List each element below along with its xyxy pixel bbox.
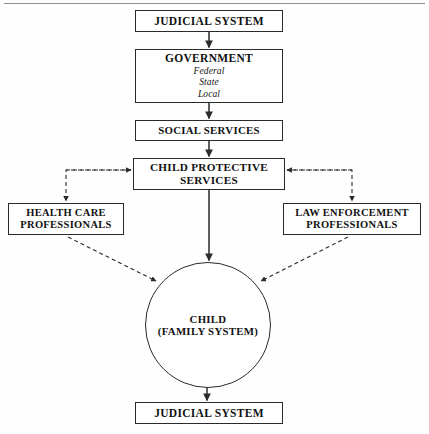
node-child-protective-services[interactable]: CHILD PROTECTIVE SERVICES — [133, 158, 285, 190]
node-label-line-2: PROFESSIONALS — [306, 219, 397, 231]
government-level-state: State — [199, 77, 219, 89]
node-label-line-2: (FAMILY SYSTEM) — [158, 325, 258, 337]
diagram-canvas: JUDICIAL SYSTEM GOVERNMENT Federal State… — [0, 0, 429, 434]
edge-law-enforcement-to-child-dashed — [261, 237, 348, 281]
node-government[interactable]: GOVERNMENT Federal State Local — [135, 49, 283, 103]
node-label: SOCIAL SERVICES — [158, 124, 260, 136]
node-health-care-professionals[interactable]: HEALTH CARE PROFESSIONALS — [8, 203, 124, 235]
edge-cps-to-health-care-dashed — [66, 170, 131, 201]
node-label-line-1: HEALTH CARE — [26, 207, 106, 219]
node-label: JUDICIAL SYSTEM — [154, 15, 264, 28]
node-label-line-2: PROFESSIONALS — [20, 219, 111, 231]
government-level-federal: Federal — [194, 66, 225, 78]
page-top-rule — [4, 3, 425, 4]
node-judicial-system-bottom[interactable]: JUDICIAL SYSTEM — [135, 402, 283, 424]
node-social-services[interactable]: SOCIAL SERVICES — [135, 120, 283, 141]
edge-cps-to-law-enforcement-dashed — [287, 170, 352, 201]
node-label-line-1: CHILD PROTECTIVE — [150, 161, 268, 174]
government-level-local: Local — [198, 89, 220, 101]
edge-health-care-to-child-dashed — [68, 237, 156, 281]
node-label: JUDICIAL SYSTEM — [154, 407, 264, 420]
node-label-line-2: SERVICES — [180, 174, 238, 187]
node-law-enforcement-professionals[interactable]: LAW ENFORCEMENT PROFESSIONALS — [283, 203, 421, 235]
node-label-line-1: CHILD — [190, 313, 227, 325]
node-child-family-system[interactable]: CHILD (FAMILY SYSTEM) — [145, 262, 271, 388]
node-label-line-1: LAW ENFORCEMENT — [295, 207, 409, 219]
node-judicial-system-top[interactable]: JUDICIAL SYSTEM — [135, 10, 283, 32]
node-label: GOVERNMENT — [165, 52, 253, 65]
